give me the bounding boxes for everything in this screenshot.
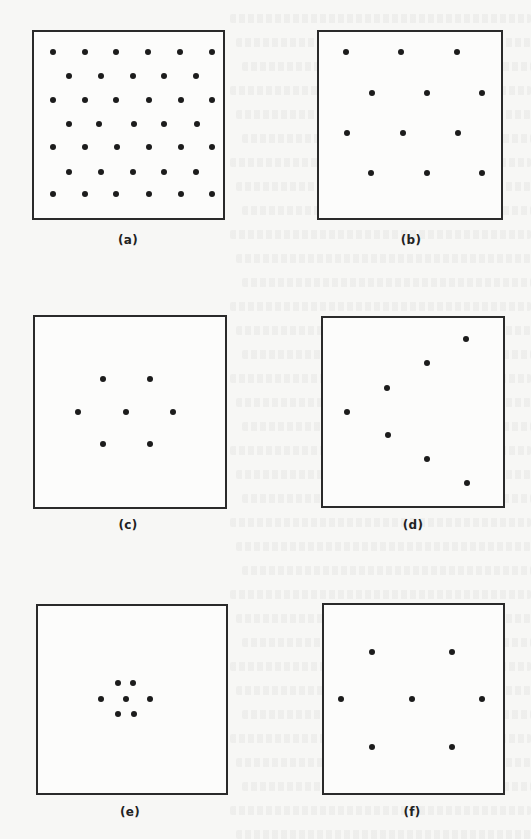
point-marker-icon bbox=[98, 169, 104, 175]
point-marker-icon bbox=[368, 170, 374, 176]
point-marker-icon bbox=[193, 169, 199, 175]
point-marker-icon bbox=[464, 480, 470, 486]
point-marker-icon bbox=[398, 49, 404, 55]
point-marker-icon bbox=[115, 680, 121, 686]
bleed-through-line bbox=[230, 806, 531, 815]
point-marker-icon bbox=[82, 49, 88, 55]
point-marker-icon bbox=[409, 696, 415, 702]
point-marker-icon bbox=[146, 97, 152, 103]
point-marker-icon bbox=[96, 121, 102, 127]
bleed-through-line bbox=[236, 830, 531, 839]
study-area-box-b bbox=[317, 30, 503, 220]
point-marker-icon bbox=[75, 409, 81, 415]
point-marker-icon bbox=[178, 97, 184, 103]
point-marker-icon bbox=[130, 73, 136, 79]
point-marker-icon bbox=[146, 144, 152, 150]
point-marker-icon bbox=[147, 376, 153, 382]
point-marker-icon bbox=[146, 191, 152, 197]
point-marker-icon bbox=[161, 169, 167, 175]
panel-label-c: (c) bbox=[119, 518, 138, 532]
study-area-box-c bbox=[33, 315, 227, 509]
point-marker-icon bbox=[449, 744, 455, 750]
point-marker-icon bbox=[463, 336, 469, 342]
bleed-through-line bbox=[242, 566, 531, 575]
point-marker-icon bbox=[384, 385, 390, 391]
point-marker-icon bbox=[113, 191, 119, 197]
point-marker-icon bbox=[131, 711, 137, 717]
point-marker-icon bbox=[130, 169, 136, 175]
point-marker-icon bbox=[114, 144, 120, 150]
point-marker-icon bbox=[147, 696, 153, 702]
bleed-through-line bbox=[230, 518, 531, 527]
point-marker-icon bbox=[424, 360, 430, 366]
panel-label-d: (d) bbox=[403, 518, 423, 532]
point-marker-icon bbox=[82, 144, 88, 150]
point-marker-icon bbox=[369, 649, 375, 655]
bleed-through-line bbox=[230, 230, 531, 239]
point-marker-icon bbox=[344, 130, 350, 136]
panel-label-b: (b) bbox=[401, 233, 421, 247]
point-marker-icon bbox=[131, 121, 137, 127]
point-marker-icon bbox=[209, 144, 215, 150]
point-marker-icon bbox=[113, 49, 119, 55]
point-marker-icon bbox=[385, 432, 391, 438]
point-marker-icon bbox=[170, 409, 176, 415]
point-marker-icon bbox=[344, 409, 350, 415]
point-marker-icon bbox=[82, 191, 88, 197]
point-marker-icon bbox=[209, 191, 215, 197]
point-marker-icon bbox=[115, 711, 121, 717]
point-marker-icon bbox=[130, 680, 136, 686]
point-marker-icon bbox=[178, 144, 184, 150]
point-marker-icon bbox=[147, 441, 153, 447]
point-marker-icon bbox=[479, 696, 485, 702]
point-marker-icon bbox=[369, 744, 375, 750]
point-marker-icon bbox=[338, 696, 344, 702]
point-marker-icon bbox=[145, 49, 151, 55]
point-marker-icon bbox=[369, 90, 375, 96]
study-area-box-e bbox=[36, 604, 228, 795]
point-marker-icon bbox=[479, 90, 485, 96]
point-marker-icon bbox=[424, 170, 430, 176]
point-marker-icon bbox=[209, 49, 215, 55]
bleed-through-line bbox=[230, 590, 531, 599]
point-marker-icon bbox=[343, 49, 349, 55]
point-marker-icon bbox=[50, 144, 56, 150]
point-marker-icon bbox=[100, 376, 106, 382]
point-marker-icon bbox=[455, 130, 461, 136]
point-marker-icon bbox=[66, 121, 72, 127]
point-marker-icon bbox=[66, 73, 72, 79]
point-marker-icon bbox=[424, 456, 430, 462]
point-marker-icon bbox=[178, 191, 184, 197]
point-marker-icon bbox=[66, 169, 72, 175]
point-marker-icon bbox=[161, 73, 167, 79]
point-marker-icon bbox=[454, 49, 460, 55]
panel-label-e: (e) bbox=[120, 805, 140, 819]
point-marker-icon bbox=[449, 649, 455, 655]
point-marker-icon bbox=[161, 121, 167, 127]
point-marker-icon bbox=[424, 90, 430, 96]
bleed-through-line bbox=[230, 302, 531, 311]
point-marker-icon bbox=[194, 121, 200, 127]
point-marker-icon bbox=[98, 73, 104, 79]
bleed-through-line bbox=[236, 542, 531, 551]
point-marker-icon bbox=[50, 97, 56, 103]
panel-label-a: (a) bbox=[118, 233, 138, 247]
point-marker-icon bbox=[50, 49, 56, 55]
point-marker-icon bbox=[82, 97, 88, 103]
point-marker-icon bbox=[479, 170, 485, 176]
point-marker-icon bbox=[209, 97, 215, 103]
point-marker-icon bbox=[193, 73, 199, 79]
point-marker-icon bbox=[177, 49, 183, 55]
point-marker-icon bbox=[100, 441, 106, 447]
point-marker-icon bbox=[113, 97, 119, 103]
panel-label-f: (f) bbox=[403, 805, 420, 819]
point-marker-icon bbox=[98, 696, 104, 702]
point-marker-icon bbox=[400, 130, 406, 136]
bleed-through-line bbox=[236, 254, 531, 263]
point-marker-icon bbox=[123, 409, 129, 415]
point-marker-icon bbox=[123, 696, 129, 702]
point-marker-icon bbox=[50, 191, 56, 197]
bleed-through-line bbox=[230, 14, 531, 23]
bleed-through-line bbox=[242, 278, 531, 287]
